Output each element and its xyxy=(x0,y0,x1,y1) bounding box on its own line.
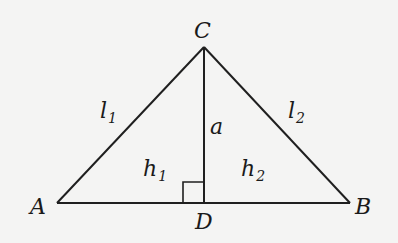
triangle-diagram: C A B D l1 l2 a h1 h2 xyxy=(0,0,398,243)
segment-label-h2: h2 xyxy=(241,158,265,180)
segment-label-h2-subscript: 2 xyxy=(256,168,265,184)
segment-label-h1-subscript: 1 xyxy=(158,168,167,184)
segment-label-h1-base: h xyxy=(143,156,157,181)
vertex-label-b: B xyxy=(355,196,371,218)
side-label-l1: l1 xyxy=(100,100,117,122)
altitude-label-a: a xyxy=(210,116,223,138)
side-cb xyxy=(204,47,350,203)
side-label-l1-base: l xyxy=(100,98,107,123)
vertex-label-d: D xyxy=(195,211,213,233)
side-label-l1-subscript: 1 xyxy=(108,110,117,126)
side-label-l2-base: l xyxy=(288,98,295,123)
segment-label-h2-base: h xyxy=(241,156,255,181)
side-label-l2: l2 xyxy=(288,100,305,122)
right-angle-marker xyxy=(183,182,204,203)
side-ac xyxy=(57,47,204,203)
vertex-label-c: C xyxy=(194,20,211,42)
side-label-l2-subscript: 2 xyxy=(296,110,305,126)
vertex-label-a: A xyxy=(30,196,46,218)
segment-label-h1: h1 xyxy=(143,158,167,180)
